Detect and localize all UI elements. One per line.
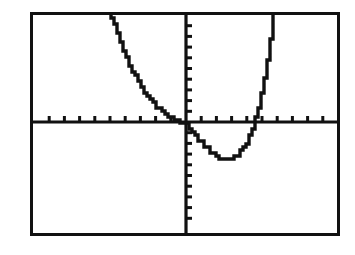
- screenshot-root: [0, 0, 355, 255]
- graph-plot-area: [30, 12, 340, 236]
- calculator-graph-screen[interactable]: [30, 12, 340, 236]
